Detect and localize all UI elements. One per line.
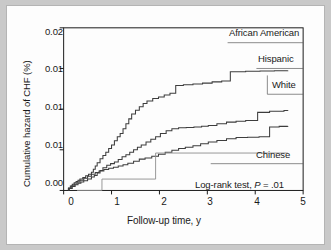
x-tick-label-0: 0 (62, 196, 80, 207)
y-tick-label-3: 0.01 (29, 139, 63, 150)
y-axis-title: Cumulative hazard of CHF (%) (21, 60, 32, 187)
x-axis-title: Follow-up time, y (127, 215, 201, 226)
figure-panel: 0.02 0.01 0.01 0.01 0.00 0 1 2 3 4 5 Fol… (6, 5, 325, 245)
y-tick-label-2: 0.01 (29, 101, 63, 112)
y-tick-label-0: 0.02 (29, 26, 63, 37)
x-tick-label-3: 3 (201, 196, 219, 207)
survival-curves (68, 71, 287, 191)
logrank-annotation: Log-rank test, P = .01 (195, 179, 284, 190)
chart-plot-area (7, 6, 324, 244)
logrank-prefix: Log-rank test, (195, 179, 254, 190)
logrank-suffix: = .01 (260, 179, 283, 190)
x-tick-label-2: 2 (155, 196, 173, 207)
series-label-african-american: African American (229, 27, 299, 38)
curve-african-american (68, 71, 287, 191)
series-label-chinese: Chinese (256, 149, 290, 160)
y-tick-label-4: 0.00 (29, 177, 63, 188)
x-tick-label-4: 4 (248, 196, 266, 207)
x-tick-label-5: 5 (294, 196, 312, 207)
series-label-white: White (272, 79, 296, 90)
y-tick-label-1: 0.01 (29, 63, 63, 74)
series-label-hispanic: Hispanic (258, 53, 294, 64)
x-tick-label-1: 1 (108, 196, 126, 207)
